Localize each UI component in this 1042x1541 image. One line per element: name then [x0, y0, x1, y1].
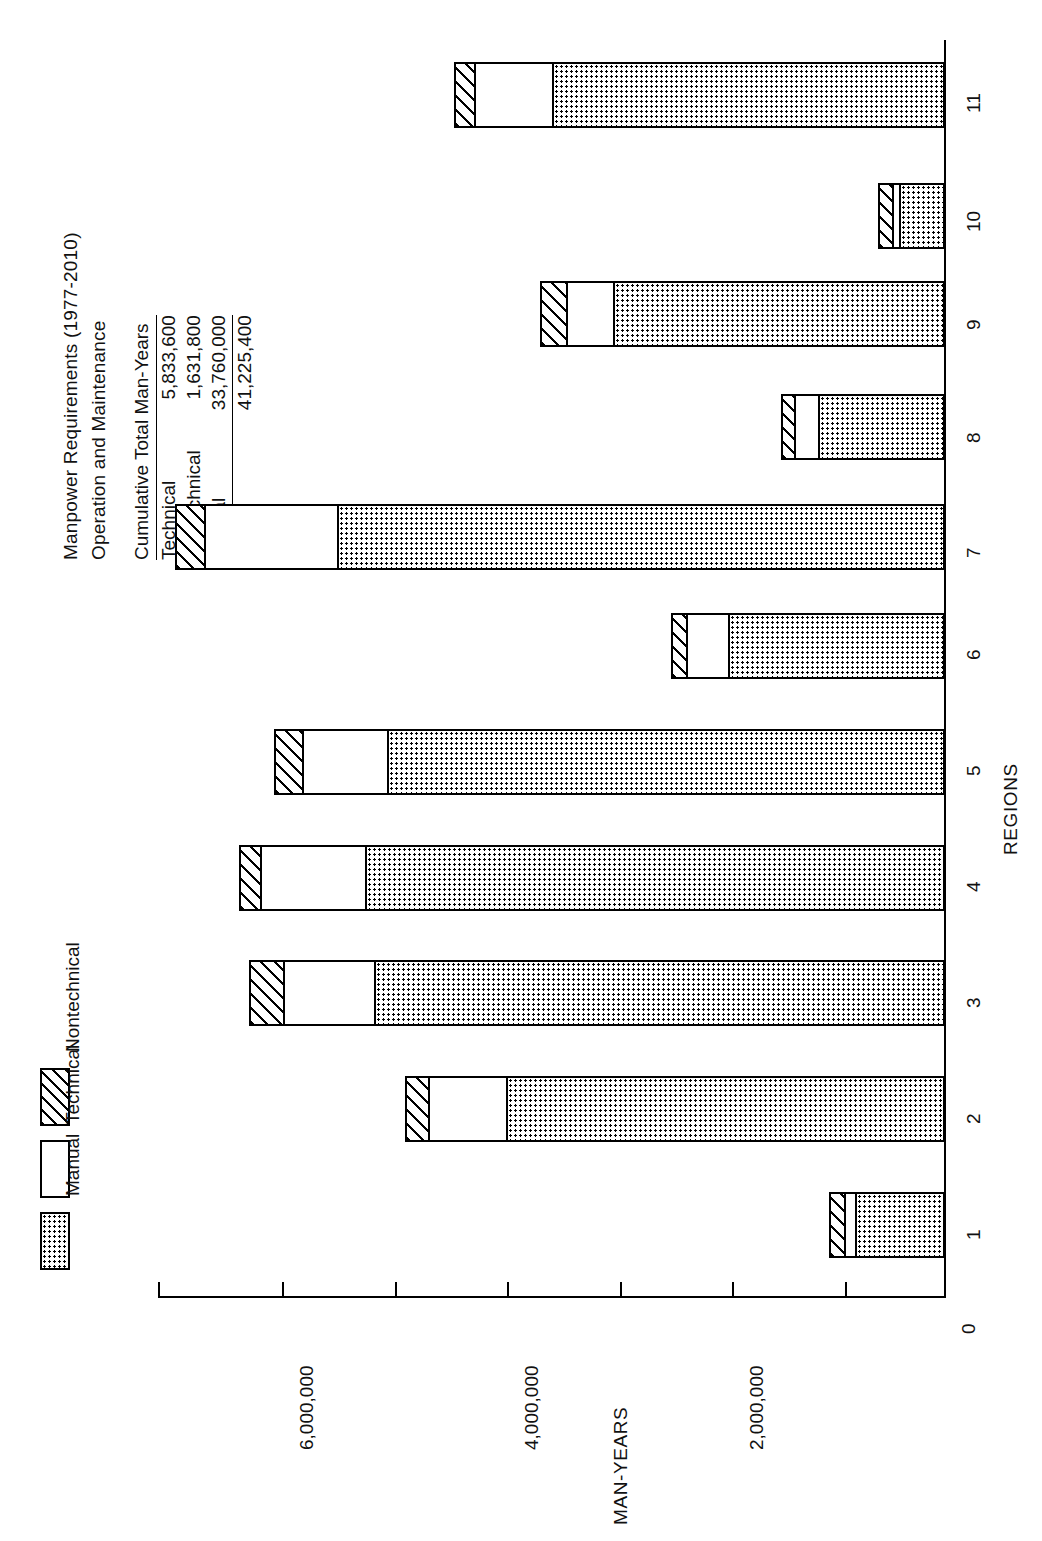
value-tick-1000000: [845, 1282, 847, 1298]
value-axis-endcap: [158, 1282, 160, 1298]
bar-segment-technical-region-9: [566, 283, 615, 345]
bar-segment-technical-region-4: [260, 847, 367, 909]
bar-segment-nontechnical-region-1: [831, 1194, 844, 1256]
bar-segment-manual-region-3: [376, 962, 943, 1024]
value-tick-6000000: [282, 1282, 284, 1298]
bar-region-6: [671, 613, 945, 679]
bar-segment-manual-region-5: [389, 731, 943, 793]
bar-segment-nontechnical-region-11: [456, 64, 474, 126]
category-label-7: 7: [963, 547, 985, 558]
bar-segment-nontechnical-region-6: [673, 615, 686, 677]
bar-segment-manual-region-1: [857, 1194, 943, 1256]
category-label-5: 5: [963, 765, 985, 776]
value-tick-label-4000000: 4,000,000: [521, 1365, 543, 1450]
value-tick-4000000: [507, 1282, 509, 1298]
bar-segment-technical-region-1: [844, 1194, 857, 1256]
bar-region-4: [239, 845, 945, 911]
bar-segment-technical-region-7: [204, 506, 339, 568]
bar-region-10: [878, 183, 945, 249]
bar-segment-technical-region-11: [474, 64, 554, 126]
value-tick-label-2000000: 2,000,000: [746, 1365, 768, 1450]
category-label-9: 9: [963, 319, 985, 330]
category-label-2: 2: [963, 1113, 985, 1124]
bar-segment-nontechnical-region-10: [880, 185, 893, 247]
bar-segment-nontechnical-region-9: [542, 283, 565, 345]
bar-region-11: [454, 62, 945, 128]
value-tick-3000000: [620, 1282, 622, 1298]
category-label-11: 11: [963, 93, 985, 113]
value-tick-label-0: 0: [958, 1323, 980, 1334]
category-label-6: 6: [963, 649, 985, 660]
bar-segment-nontechnical-region-4: [241, 847, 260, 909]
bar-segment-nontechnical-region-5: [276, 731, 302, 793]
bar-segment-nontechnical-region-7: [177, 506, 204, 568]
bar-region-8: [781, 394, 945, 460]
bar-segment-nontechnical-region-3: [251, 962, 282, 1024]
bar-segment-nontechnical-region-2: [407, 1078, 427, 1140]
bar-segment-manual-region-9: [615, 283, 943, 345]
category-label-10: 10: [963, 211, 985, 232]
value-axis-line: [158, 1296, 946, 1298]
value-tick-5000000: [395, 1282, 397, 1298]
category-label-8: 8: [963, 432, 985, 443]
category-axis-title: REGIONS: [1000, 763, 1022, 855]
category-label-4: 4: [963, 881, 985, 892]
bar-segment-manual-region-8: [820, 396, 943, 458]
bar-segment-manual-region-2: [508, 1078, 943, 1140]
bar-segment-technical-region-6: [686, 615, 730, 677]
bar-segment-technical-region-10: [892, 185, 901, 247]
bar-segment-manual-region-4: [367, 847, 943, 909]
bar-segment-manual-region-11: [554, 64, 943, 126]
chart-figure: Manpower Requirements (1977-2010) Operat…: [0, 0, 1042, 1541]
bar-segment-technical-region-8: [794, 396, 820, 458]
bar-segment-manual-region-7: [339, 506, 943, 568]
plot-area: 6,000,000 4,000,000 2,000,000 0 MAN-YEAR…: [0, 0, 1042, 1541]
value-tick-2000000: [732, 1282, 734, 1298]
category-label-1: 1: [963, 1229, 985, 1240]
bar-segment-technical-region-5: [302, 731, 389, 793]
bar-segment-technical-region-2: [428, 1078, 508, 1140]
category-label-3: 3: [963, 997, 985, 1008]
bar-segment-manual-region-6: [730, 615, 943, 677]
bar-segment-technical-region-3: [283, 962, 377, 1024]
value-axis-title: MAN-YEARS: [610, 1407, 632, 1525]
value-tick-label-6000000: 6,000,000: [296, 1365, 318, 1450]
bar-region-2: [405, 1076, 945, 1142]
bar-segment-nontechnical-region-8: [783, 396, 794, 458]
bar-region-1: [829, 1192, 945, 1258]
bar-region-5: [274, 729, 945, 795]
bar-region-7: [175, 504, 945, 570]
bar-region-3: [249, 960, 945, 1026]
bar-segment-manual-region-10: [901, 185, 943, 247]
bar-region-9: [540, 281, 945, 347]
